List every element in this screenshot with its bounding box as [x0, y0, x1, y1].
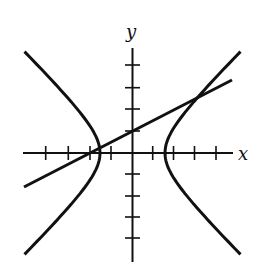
graph: x y: [0, 0, 262, 272]
line-y-equals-half-x-plus-1: [24, 80, 232, 187]
y-axis-label: y: [125, 21, 137, 42]
x-axis-label: x: [238, 143, 248, 164]
